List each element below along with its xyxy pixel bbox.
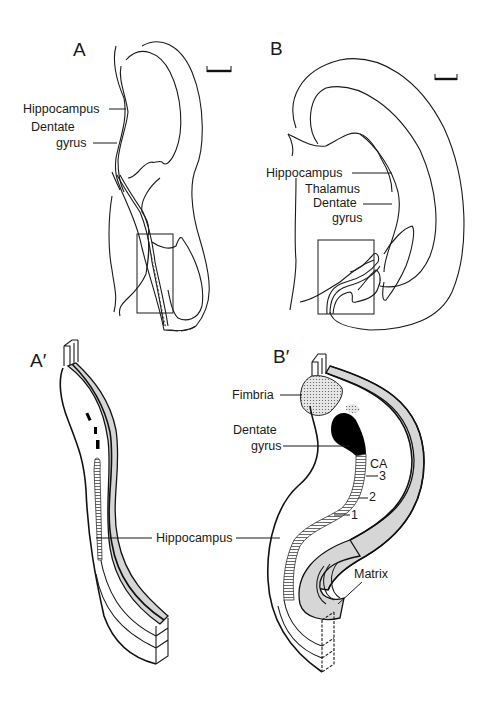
panel-b-label-dentate-2: gyrus	[332, 211, 363, 225]
panel-b-prime-dotted-patch	[346, 404, 360, 413]
panel-b-letter: B	[270, 38, 283, 59]
panel-b-label-dentate-1: Dentate	[313, 196, 357, 210]
hippocampus-figure: A Hippocampus Dentate gyrus B	[0, 0, 479, 706]
panel-b-dentate-layer	[360, 134, 392, 192]
panel-a-prime-ventricular-zone	[68, 363, 168, 624]
panel-a-prime-top-stub	[64, 340, 78, 366]
panel-b-inner-lobe	[383, 226, 414, 300]
panel-b-prime-label-ca3: 3	[379, 469, 386, 483]
panel-b-curved-layer-3	[333, 270, 380, 314]
panel-b-scale-bar	[435, 74, 457, 80]
panel-a-outer-outline	[114, 42, 209, 331]
panel-b-prime-label-ca2: 2	[369, 490, 376, 504]
panel-b-prime-bottom-block	[322, 612, 334, 672]
panel-b-prime-letter: B′	[273, 346, 290, 367]
panel-b-prime-fimbria	[300, 376, 342, 416]
panel-a-ventral-loop	[152, 237, 203, 319]
panel-b-prime-top-stub	[312, 354, 326, 376]
panel-a-label-dentate-2: gyrus	[56, 136, 87, 150]
panel-a: A Hippocampus Dentate gyrus	[23, 39, 231, 331]
panel-b-label-thalamus: Thalamus	[305, 182, 360, 196]
panel-a-prime-letter: A′	[30, 350, 47, 371]
panel-a-letter: A	[73, 39, 86, 60]
panel-b-label-hippocampus: Hippocampus	[266, 166, 342, 180]
panel-b-prime-label-ca1: 1	[351, 508, 358, 522]
panel-b: B Hippocampus Thalamus Dentate gyrus	[266, 38, 464, 330]
panel-a-dentate-dashed	[150, 250, 166, 328]
panel-b-prime-label-dentate-1: Dentate	[233, 423, 277, 437]
panel-a-label-dentate-1: Dentate	[31, 120, 75, 134]
panel-b-prime-label-dentate-2: gyrus	[251, 439, 282, 453]
panel-b-prime-label-matrix: Matrix	[354, 567, 389, 581]
panel-b-prime-label-fimbria: Fimbria	[232, 388, 274, 402]
panel-a-bottom-outline	[172, 326, 196, 331]
panel-b-prime-dentate-gyrus	[331, 413, 366, 456]
panel-a-scale-bar	[207, 66, 231, 72]
panel-a-prime-black-dashes	[85, 413, 99, 449]
panel-a-prime-hippocampus-hatch	[94, 458, 102, 560]
panel-b-prime: B′ Fimbria Dentate gyrus CA 3 2	[232, 346, 424, 672]
panel-b-prime-leader-matrix	[338, 582, 362, 604]
panel-a-prime-bottom-block	[156, 618, 168, 664]
panel-a-inner-outline	[118, 51, 181, 192]
panel-a-label-hippocampus: Hippocampus	[23, 102, 99, 116]
panel-a-prime-label-hippocampus: Hippocampus	[156, 531, 232, 545]
